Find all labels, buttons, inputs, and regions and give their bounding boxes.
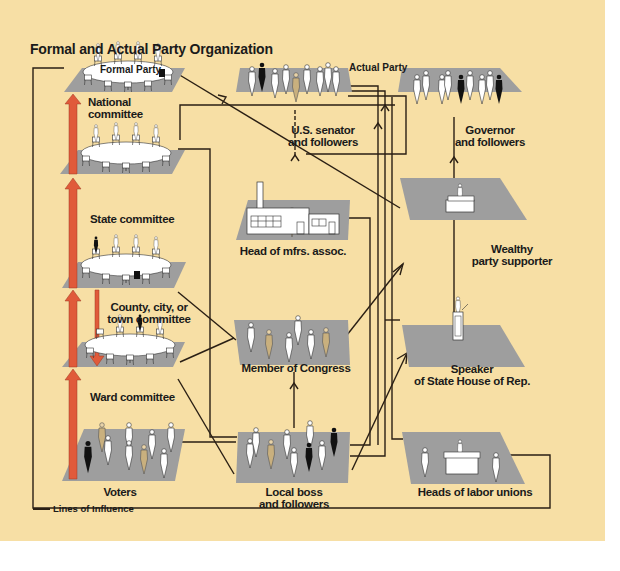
node-label-national: National committee [88,96,188,120]
node-label-county: County, city, or town committee [104,301,194,325]
node-label-governor: Governor and followers [440,124,540,148]
node-label-mfrs: Head of mfrs. assoc. [238,245,348,257]
node-label-boss: Local boss and followers [244,486,344,510]
diagram-title: Formal and Actual Party Organization [30,41,273,57]
legend: Lines of Influence [33,503,134,514]
node-label-voters: Voters [90,486,150,498]
node-label-senator: U.S. senator and followers [283,124,363,148]
node-label-state: State committee [90,213,190,225]
column-header-actual: Actual Party [349,62,407,73]
node-label-congress: Member of Congress [236,362,356,374]
node-label-ward: Ward committee [90,391,190,403]
node-label-labor: Heads of labor unions [410,486,540,498]
node-label-speaker: Speaker of State House of Rep. [402,363,542,387]
legend-label: Lines of Influence [53,503,134,514]
column-header-formal: Formal Party [100,64,161,75]
node-label-wealthy: Wealthy party supporter [452,243,572,267]
diagram-canvas: Formal and Actual Party Organization For… [0,0,605,541]
diagram-graphics [0,0,605,541]
line-swatch-icon [33,508,50,510]
